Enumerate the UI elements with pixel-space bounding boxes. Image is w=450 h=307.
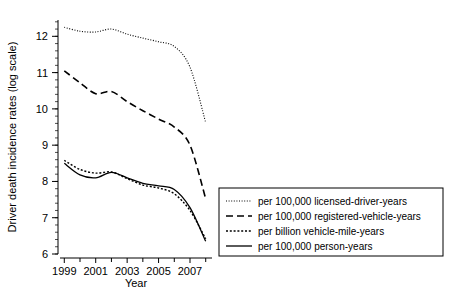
legend-label-2: per billion vehicle-mile-years — [258, 226, 384, 237]
chart-legend: per 100,000 licensed-driver-yearsper 100… — [219, 188, 443, 256]
x-tick-label: 2005 — [146, 265, 170, 277]
x-tick-label: 2001 — [83, 265, 107, 277]
y-tick-label: 9 — [42, 139, 48, 151]
line-chart: 6789101112 19992001200320052007 Year Dri… — [0, 0, 450, 307]
y-tick-label: 7 — [42, 212, 48, 224]
y-tick-label: 11 — [37, 67, 48, 79]
x-tick-label: 2003 — [115, 265, 139, 277]
chart-figure: 6789101112 19992001200320052007 Year Dri… — [0, 0, 450, 307]
legend-label-1: per 100,000 registered-vehicle-years — [258, 211, 421, 222]
x-axis-title: Year — [125, 277, 148, 289]
y-axis-title: Driver death incidence rates (log scale) — [6, 42, 18, 233]
y-tick-label: 8 — [42, 175, 48, 187]
chart-background — [0, 0, 450, 307]
y-tick-label: 12 — [36, 30, 48, 42]
legend-label-0: per 100,000 licensed-driver-years — [258, 196, 407, 207]
x-tick-label: 2007 — [178, 265, 202, 277]
x-tick-label: 1999 — [52, 265, 76, 277]
x-axis-tick-labels: 19992001200320052007 — [52, 265, 202, 277]
legend-label-3: per 100,000 person-years — [258, 241, 373, 252]
y-tick-label: 10 — [36, 103, 48, 115]
y-tick-label: 6 — [42, 248, 48, 260]
